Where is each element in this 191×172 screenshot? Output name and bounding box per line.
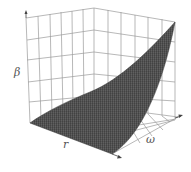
y-axis-label: ω [146, 133, 155, 146]
z-axis-label: β [13, 66, 20, 79]
surface-plot: β r ω [0, 0, 191, 172]
x-axis-label: r [63, 138, 69, 151]
